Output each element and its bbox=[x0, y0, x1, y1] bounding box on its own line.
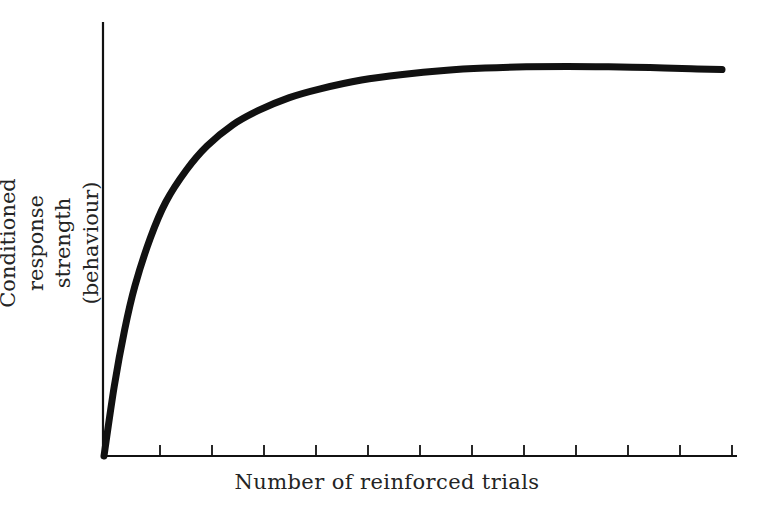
chart-figure-page: Conditioned response strength (behaviour… bbox=[0, 0, 774, 521]
plot-canvas bbox=[0, 0, 774, 521]
x-axis-label: Number of reinforced trials bbox=[0, 470, 774, 494]
y-axis-label: Conditioned response strength (behaviour… bbox=[0, 178, 105, 308]
acquisition-curve-line bbox=[104, 66, 722, 456]
y-axis-label-container: Conditioned response strength (behaviour… bbox=[14, 28, 86, 458]
x-axis-ticks bbox=[160, 445, 732, 456]
acquisition-curve-figure: Conditioned response strength (behaviour… bbox=[0, 0, 774, 521]
y-axis-label-line2: (behaviour) bbox=[78, 178, 106, 308]
axis-lines bbox=[103, 22, 737, 456]
y-axis-label-line1: Conditioned response strength bbox=[0, 178, 78, 308]
